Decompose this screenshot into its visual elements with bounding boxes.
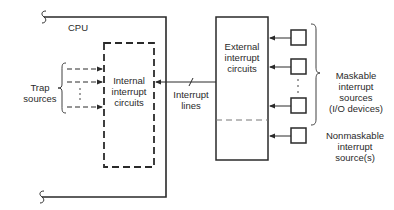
- nonmaskable-device: [270, 128, 306, 143]
- trap-ellipsis-dots: [79, 88, 81, 100]
- label-line: External: [216, 41, 268, 52]
- label-line: sources: [20, 93, 60, 104]
- label-line: Interrupt: [166, 89, 216, 100]
- trap-sources-label: Trap sources: [20, 82, 60, 104]
- label-line: Internal: [104, 75, 154, 86]
- trap-source-arrows: [67, 69, 102, 107]
- cpu-label: CPU: [68, 22, 88, 33]
- nonmaskable-source-label: Nonmaskable interrupt source(s): [316, 130, 394, 163]
- interrupt-lines-label: Interrupt lines: [166, 89, 216, 111]
- label-line: interrupt: [104, 86, 154, 97]
- label-line: circuits: [216, 63, 268, 74]
- label-line: lines: [166, 100, 216, 111]
- label-line: interrupt: [216, 52, 268, 63]
- maskable-device-2: [270, 59, 306, 74]
- label-line: sources: [318, 92, 394, 103]
- label-line: Maskable: [318, 70, 394, 81]
- maskable-sources-label: Maskable interrupt sources (I/O devices): [318, 70, 394, 114]
- external-interrupt-circuits-label: External interrupt circuits: [216, 41, 268, 74]
- label-line: interrupt: [316, 141, 394, 152]
- external-interrupt-circuits-box: [216, 17, 268, 160]
- maskable-ellipsis-dots: [297, 79, 299, 93]
- label-line: Nonmaskable: [316, 130, 394, 141]
- label-line: circuits: [104, 97, 154, 108]
- label-line: (I/O devices): [318, 103, 394, 114]
- internal-interrupt-circuits-label: Internal interrupt circuits: [104, 75, 154, 108]
- label-line: Trap: [20, 82, 60, 93]
- maskable-device-1: [270, 30, 306, 45]
- maskable-device-n: [270, 98, 306, 113]
- label-line: source(s): [316, 152, 394, 163]
- label-line: interrupt: [318, 81, 394, 92]
